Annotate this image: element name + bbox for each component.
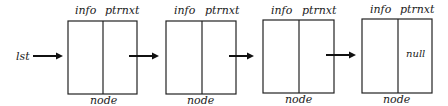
linked-list-diagram: lst info ptrnxt node info ptrnxt node in… (0, 0, 448, 106)
node-label: node (285, 93, 313, 106)
ptrnxt-field-label: ptrnxt (205, 4, 240, 17)
node-label: node (187, 94, 215, 106)
node-4: info ptrnxt null node (362, 3, 435, 106)
node-3: info ptrnxt node (263, 4, 337, 106)
info-field-label: info (370, 3, 392, 16)
null-pointer-value: null (406, 48, 425, 59)
info-field-label: info (174, 4, 196, 17)
lst-arrow (33, 53, 63, 60)
node-box (166, 21, 236, 94)
node-label: node (383, 93, 411, 106)
ptrnxt-field-label: ptrnxt (400, 3, 435, 16)
info-field-label: info (75, 4, 97, 17)
lst-label: lst (16, 50, 30, 63)
node-label: node (90, 94, 118, 106)
info-field-label: info (271, 4, 293, 17)
node-2: info ptrnxt node (166, 4, 240, 106)
ptrnxt-field-label: ptrnxt (105, 4, 140, 17)
ptrnxt-field-label: ptrnxt (302, 4, 337, 17)
